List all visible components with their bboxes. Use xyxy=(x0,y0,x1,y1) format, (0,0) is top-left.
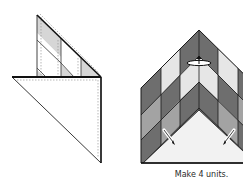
strip-triangle xyxy=(37,14,101,77)
folded-triangle-figure xyxy=(12,14,101,163)
figure-caption: Make 4 units. xyxy=(160,170,243,179)
chevron-body xyxy=(141,20,243,170)
background-triangle xyxy=(12,77,101,163)
quilt-diagram xyxy=(0,0,243,184)
chevron-unit-figure xyxy=(141,20,243,170)
